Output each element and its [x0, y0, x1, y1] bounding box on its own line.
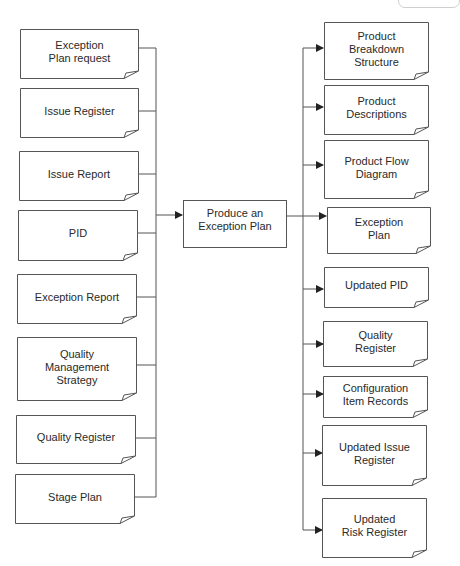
output-label: QualityRegister — [355, 329, 396, 355]
input-label: Stage Plan — [48, 491, 102, 504]
input-label: Exception Report — [35, 291, 119, 304]
output-doc-updated-issue-register: Updated IssueRegister — [322, 425, 427, 486]
process-label: Produce an Exception Plan — [192, 207, 278, 233]
input-doc-pid: PID — [18, 210, 138, 261]
input-label: Issue Register — [44, 105, 114, 118]
input-label: PID — [69, 227, 87, 240]
input-doc-issue-register: Issue Register — [20, 88, 139, 138]
output-label: Updated PID — [345, 279, 408, 292]
input-doc-exception-plan-request: ExceptionPlan request — [20, 29, 139, 79]
input-label: Quality Register — [37, 431, 115, 444]
input-doc-quality-register: Quality Register — [16, 415, 136, 464]
output-doc-configuration-item-records: ConfigurationItem Records — [323, 376, 428, 418]
output-doc-product-flow-diagram: Product FlowDiagram — [324, 140, 429, 199]
input-doc-stage-plan: Stage Plan — [15, 474, 135, 524]
output-doc-exception-plan: ExceptionPlan — [327, 207, 431, 254]
output-label: ConfigurationItem Records — [343, 382, 408, 408]
output-doc-updated-pid: Updated PID — [324, 267, 429, 308]
process-box: Produce an Exception Plan — [183, 200, 287, 248]
output-label: UpdatedRisk Register — [342, 513, 407, 539]
output-label: ExceptionPlan — [355, 216, 403, 242]
input-doc-issue-report: Issue Report — [19, 151, 139, 201]
output-label: Updated IssueRegister — [339, 441, 410, 467]
output-doc-quality-register: QualityRegister — [323, 321, 428, 367]
input-doc-exception-report: Exception Report — [17, 274, 137, 324]
input-label: ExceptionPlan request — [49, 39, 111, 65]
output-label: Product FlowDiagram — [344, 155, 408, 181]
input-doc-quality-management-strategy: QualityManagementStrategy — [17, 337, 137, 401]
input-label: QualityManagementStrategy — [45, 348, 109, 387]
output-label: ProductDescriptions — [346, 95, 407, 121]
input-label: Issue Report — [48, 168, 110, 181]
output-doc-product-descriptions: ProductDescriptions — [324, 85, 429, 135]
output-doc-product-breakdown-structure: ProductBreakdownStructure — [324, 22, 429, 80]
output-doc-updated-risk-register: UpdatedRisk Register — [322, 498, 427, 558]
output-label: ProductBreakdownStructure — [349, 30, 404, 69]
